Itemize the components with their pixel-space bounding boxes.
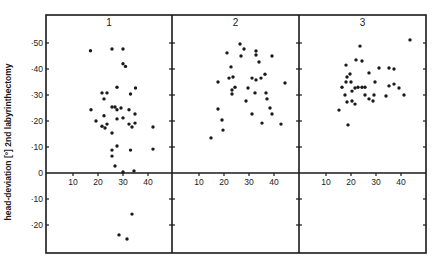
- data-point: [344, 80, 347, 83]
- data-point: [244, 99, 247, 102]
- data-point: [367, 71, 370, 74]
- data-point: [268, 106, 271, 109]
- panel-2: 210203040: [194, 17, 286, 187]
- x-tick-label: 10: [194, 177, 204, 187]
- data-point: [246, 86, 249, 89]
- data-point: [350, 89, 353, 92]
- x-tick-label: 30: [118, 177, 128, 187]
- data-point: [102, 114, 105, 117]
- data-point: [229, 65, 232, 68]
- data-point: [220, 118, 223, 121]
- data-point: [127, 122, 130, 125]
- data-point: [345, 100, 348, 103]
- data-point: [230, 88, 233, 91]
- data-point: [360, 86, 363, 89]
- data-point: [350, 99, 353, 102]
- data-point: [354, 58, 357, 61]
- panel-title: 3: [360, 17, 366, 28]
- data-point: [110, 148, 113, 151]
- data-point: [121, 62, 124, 65]
- x-tick-label: 20: [346, 177, 356, 187]
- data-point: [105, 91, 108, 94]
- panel-title: 2: [233, 17, 239, 28]
- data-point: [209, 136, 212, 139]
- data-point: [89, 108, 92, 111]
- data-point: [242, 47, 245, 50]
- data-point: [100, 91, 103, 94]
- data-point: [233, 86, 236, 89]
- data-point: [384, 94, 387, 97]
- y-tick-label: 0: [38, 168, 43, 178]
- data-point: [102, 97, 105, 100]
- data-point: [133, 112, 136, 115]
- data-point: [127, 108, 130, 111]
- data-point: [254, 49, 257, 52]
- data-point: [253, 91, 256, 94]
- y-tick-label: ·40: [31, 64, 44, 74]
- data-point: [337, 108, 340, 111]
- data-point: [121, 170, 124, 173]
- data-point: [283, 81, 286, 84]
- data-point: [110, 154, 113, 157]
- panel-3: 310203040: [321, 17, 411, 187]
- data-point: [387, 84, 390, 87]
- data-point: [349, 80, 352, 83]
- data-point: [129, 148, 132, 151]
- data-point: [356, 86, 359, 89]
- data-point: [121, 47, 124, 50]
- x-tick-label: 20: [219, 177, 229, 187]
- data-point: [373, 80, 376, 83]
- data-point: [263, 73, 266, 76]
- data-point: [239, 54, 242, 57]
- y-tick-label: ·20: [31, 220, 44, 230]
- data-point: [392, 82, 395, 85]
- panel-1: 110203040: [68, 17, 154, 241]
- data-point: [130, 212, 133, 215]
- data-point: [125, 237, 128, 240]
- data-point: [151, 147, 154, 150]
- data-point: [353, 86, 356, 89]
- data-point: [115, 86, 118, 89]
- data-point: [344, 63, 347, 66]
- y-tick-label: ·50: [31, 38, 44, 48]
- scatter-chart: ·50·40·30·20·100·10·20 11020304021020304…: [0, 0, 439, 270]
- data-point: [113, 105, 116, 108]
- data-point: [265, 97, 268, 100]
- data-point: [103, 126, 106, 129]
- data-point: [113, 164, 116, 167]
- data-point: [216, 107, 219, 110]
- data-point: [225, 51, 228, 54]
- x-tick-label: 20: [93, 177, 103, 187]
- data-point: [250, 112, 253, 115]
- data-point: [348, 72, 351, 75]
- data-point: [387, 66, 390, 69]
- panels: 110203040210203040310203040: [68, 17, 411, 241]
- data-point: [121, 116, 124, 119]
- data-point: [151, 125, 154, 128]
- data-point: [346, 123, 349, 126]
- data-point: [115, 108, 118, 111]
- data-point: [115, 117, 118, 120]
- data-point: [110, 131, 113, 134]
- y-tick-label: ·10: [31, 194, 44, 204]
- data-point: [345, 75, 348, 78]
- x-tick-label: 40: [143, 177, 153, 187]
- y-axis: ·50·40·30·20·100·10·20: [31, 38, 426, 230]
- data-point: [372, 93, 375, 96]
- x-tick-label: 30: [244, 177, 254, 187]
- data-point: [402, 93, 405, 96]
- panel-title: 1: [106, 17, 112, 28]
- data-point: [115, 144, 118, 147]
- data-point: [360, 59, 363, 62]
- data-point: [343, 93, 346, 96]
- data-point: [94, 119, 97, 122]
- data-point: [254, 78, 257, 81]
- data-point: [377, 66, 380, 69]
- x-tick-label: 40: [396, 177, 406, 187]
- data-point: [363, 93, 366, 96]
- data-point: [260, 121, 263, 124]
- data-point: [110, 47, 113, 50]
- data-point: [130, 125, 133, 128]
- data-point: [257, 60, 260, 63]
- y-tick-label: ·30: [31, 90, 44, 100]
